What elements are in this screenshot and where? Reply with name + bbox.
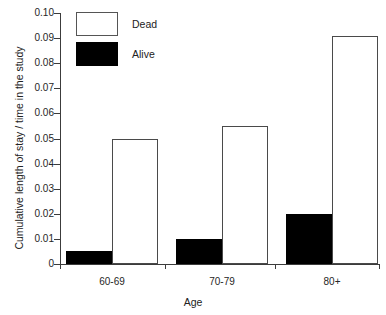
clipped-caption — [96, 0, 306, 3]
y-tick-label: 0 — [20, 259, 54, 269]
y-tick-label: 0.09 — [20, 33, 54, 43]
bar-alive-60-69 — [66, 251, 112, 264]
legend-label-alive: Alive — [132, 48, 155, 60]
x-tick-label: 70-79 — [192, 276, 252, 287]
bar-dead-80+ — [332, 36, 378, 264]
bar-dead-70-79 — [222, 126, 268, 264]
legend-swatch-dead-icon — [76, 12, 118, 36]
y-tick-label: 0.03 — [20, 184, 54, 194]
x-axis-title: Age — [0, 296, 386, 308]
x-tick — [165, 264, 166, 269]
x-tick-label: 80+ — [302, 276, 362, 287]
y-tick-label: 0.05 — [20, 134, 54, 144]
legend-swatch-alive-icon — [76, 42, 118, 66]
bar-alive-70-79 — [176, 239, 222, 264]
y-tick-label: 0.10 — [20, 8, 54, 18]
y-tick-label: 0.08 — [20, 58, 54, 68]
x-axis-line — [60, 264, 380, 265]
x-tick — [379, 264, 380, 269]
x-tick-label: 60-69 — [82, 276, 142, 287]
x-tick — [60, 264, 61, 269]
y-tick-label: 0.01 — [20, 234, 54, 244]
x-tick — [275, 264, 276, 269]
y-axis-tick-labels: 00.010.020.030.040.050.060.070.080.090.1… — [14, 0, 54, 315]
y-tick-label: 0.07 — [20, 83, 54, 93]
y-tick-label: 0.02 — [20, 209, 54, 219]
bar-chart: Cumulative length of stay / time in the … — [0, 0, 386, 315]
bar-dead-60-69 — [112, 139, 158, 265]
y-tick-label: 0.06 — [20, 108, 54, 118]
y-tick-label: 0.04 — [20, 159, 54, 169]
legend-label-dead: Dead — [132, 18, 157, 30]
bar-alive-80+ — [286, 214, 332, 264]
